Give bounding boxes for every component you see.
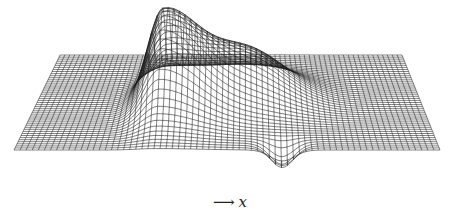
x-axis-label: ⟶x bbox=[213, 193, 247, 211]
wireframe-surface-plot bbox=[0, 0, 459, 218]
arrow-right-icon: ⟶ bbox=[213, 193, 235, 211]
x-variable: x bbox=[239, 193, 247, 211]
surface-mesh bbox=[14, 8, 440, 168]
